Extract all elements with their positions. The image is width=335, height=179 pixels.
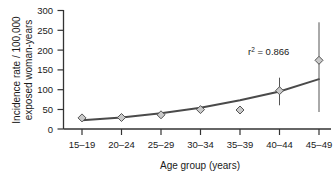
- y-tick-label-50: 50: [42, 104, 53, 115]
- x-tick-label-35-39: 35–39: [227, 139, 253, 150]
- incidence-rate-scatter-chart: 300 250 200 150 100 50 0 15–19 20–24 25–…: [0, 0, 335, 179]
- x-tick-label-25-29: 25–29: [148, 139, 174, 150]
- y-axis-title-line2: exposed woman-years: [23, 20, 34, 121]
- chart-figure: 300 250 200 150 100 50 0 15–19 20–24 25–…: [0, 0, 335, 179]
- x-tick-label-30-34: 30–34: [187, 139, 213, 150]
- x-tick-label-45-49: 45–49: [306, 139, 332, 150]
- error-bars: [201, 22, 320, 114]
- x-tick-label-20-24: 20–24: [108, 139, 134, 150]
- y-tick-label-100: 100: [37, 84, 53, 95]
- y-tick-label-250: 250: [37, 25, 53, 36]
- data-point-35-39[interactable]: [236, 106, 244, 114]
- y-tick-label-150: 150: [37, 64, 53, 75]
- y-tick-label-200: 200: [37, 45, 53, 56]
- y-axis-ticks: [58, 11, 64, 130]
- data-point-40-44[interactable]: [276, 87, 284, 95]
- r-squared-annotation: r2 = 0.866: [248, 46, 289, 58]
- y-tick-label-300: 300: [37, 5, 53, 16]
- x-axis-title: Age group (years): [160, 160, 240, 171]
- y-axis-title-line1: Incidence rate / 100,000: [11, 16, 22, 124]
- x-tick-label-40-44: 40–44: [266, 139, 292, 150]
- data-point-45-49[interactable]: [315, 56, 323, 64]
- r-squared-suffix: = 0.866: [255, 46, 290, 57]
- x-tick-label-15-19: 15–19: [69, 139, 95, 150]
- data-point-20-24[interactable]: [118, 114, 126, 122]
- y-tick-label-0: 0: [48, 124, 53, 135]
- x-axis-ticks: [82, 129, 319, 135]
